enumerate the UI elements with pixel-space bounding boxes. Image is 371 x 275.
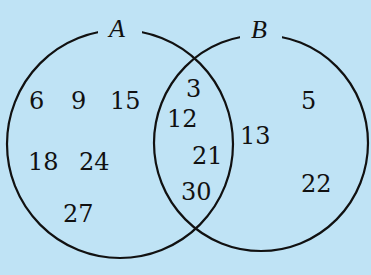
intersection-value: 3 xyxy=(186,75,201,103)
a-only-value: 9 xyxy=(71,87,86,115)
venn-diagram: A B 6 9 15 18 24 27 3 12 21 30 5 13 22 xyxy=(0,0,371,275)
a-only-value: 15 xyxy=(110,87,141,115)
a-only-value: 6 xyxy=(29,87,44,115)
intersection-value: 21 xyxy=(192,142,223,170)
b-only-value: 22 xyxy=(301,170,332,198)
a-only-value: 18 xyxy=(28,148,59,176)
set-b-label: B xyxy=(251,15,267,44)
a-only-value: 27 xyxy=(63,200,94,228)
intersection-value: 30 xyxy=(181,178,212,206)
b-only-value: 5 xyxy=(301,87,316,115)
a-only-value: 24 xyxy=(79,148,110,176)
intersection-value: 12 xyxy=(167,105,198,133)
set-a-label: A xyxy=(107,14,125,43)
b-only-value: 13 xyxy=(240,122,271,150)
